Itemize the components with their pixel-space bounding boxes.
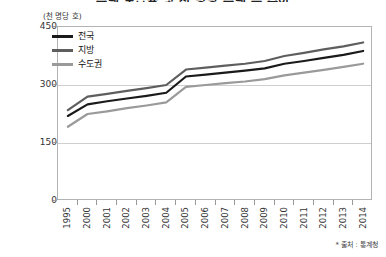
legend-color-swatch [52, 35, 73, 38]
series-lines [58, 27, 373, 201]
x-axis-tick-mark [96, 200, 97, 205]
y-axis: 0150300450 [0, 0, 57, 206]
x-axis: 1995200020012002200320042005200620072008… [57, 200, 372, 257]
x-axis-tick-label: 2000 [82, 207, 92, 229]
plot-area [57, 26, 372, 200]
x-axis-tick-mark [77, 200, 78, 205]
x-axis-tick-label: 2008 [240, 207, 250, 229]
x-axis-tick-label: 2006 [200, 207, 210, 229]
legend-item[interactable]: 수도권 [52, 59, 102, 70]
x-axis-tick-label: 2011 [299, 207, 309, 229]
x-axis-tick-mark [333, 200, 334, 205]
x-axis-tick-mark [136, 200, 137, 205]
legend-item[interactable]: 지방 [52, 45, 102, 56]
legend-color-swatch [52, 63, 73, 66]
x-axis-tick-label: 2014 [358, 207, 368, 229]
x-axis-tick-mark [116, 200, 117, 205]
legend-item-label: 지방 [78, 45, 94, 56]
x-axis-tick-mark [215, 200, 216, 205]
x-axis-tick-label: 2005 [180, 207, 190, 229]
chart-legend: 전국지방수도권 [52, 31, 102, 70]
x-axis-tick-label: 2007 [220, 207, 230, 229]
legend-item-label: 전국 [78, 31, 94, 42]
legend-item-label: 수도권 [78, 59, 102, 70]
y-axis-tick-label: 450 [11, 21, 57, 31]
x-axis-tick-label: 2002 [121, 207, 131, 229]
source-footnote: * 출처 : 통계청 [335, 239, 378, 249]
x-axis-tick-label: 2004 [161, 207, 171, 229]
x-axis-tick-mark [254, 200, 255, 205]
x-axis-tick-mark [293, 200, 294, 205]
x-axis-tick-label: 2001 [102, 207, 112, 229]
x-axis-tick-label: 2010 [279, 207, 289, 229]
x-axis-tick-mark [234, 200, 235, 205]
y-axis-tick-label: 0 [11, 195, 57, 205]
x-axis-tick-mark [155, 200, 156, 205]
x-axis-tick-mark [352, 200, 353, 205]
y-axis-tick-label: 300 [11, 79, 57, 89]
x-axis-tick-label: 2013 [338, 207, 348, 229]
x-axis-tick-label: 2012 [318, 207, 328, 229]
chart-title: 주택 보급률 및 천 명당 주택 수 추이 [0, 0, 386, 2]
x-axis-tick-mark [274, 200, 275, 205]
legend-color-swatch [52, 49, 73, 52]
x-axis-tick-label: 2003 [141, 207, 151, 229]
chart-container: 주택 보급률 및 천 명당 주택 수 추이 (천 명당 호) 015030045… [0, 0, 386, 257]
y-axis-tick-label: 150 [11, 137, 57, 147]
x-axis-tick-mark [175, 200, 176, 205]
x-axis-tick-mark [195, 200, 196, 205]
legend-item[interactable]: 전국 [52, 31, 102, 42]
x-axis-tick-mark [313, 200, 314, 205]
x-axis-tick-label: 2009 [259, 207, 269, 229]
x-axis-tick-label: 1995 [62, 207, 72, 229]
